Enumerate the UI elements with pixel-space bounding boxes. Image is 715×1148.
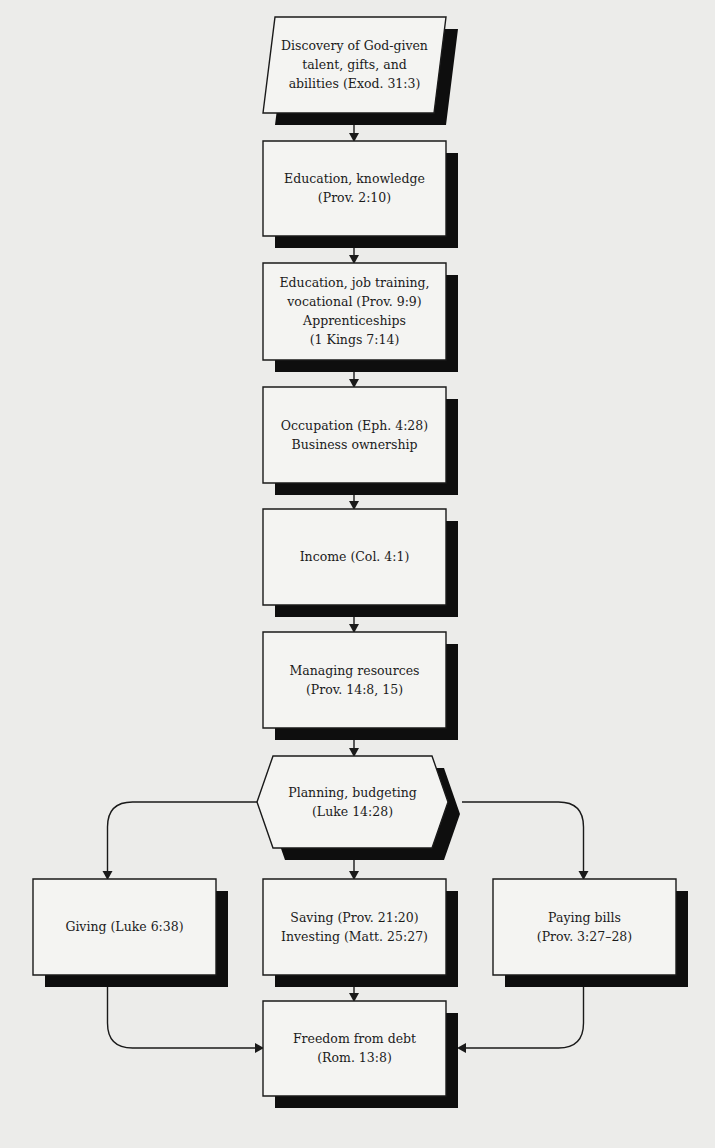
node-label-line: Education, knowledge [284,171,425,186]
nodes-layer: Discovery of God-giventalent, gifts, and… [33,17,688,1108]
node-shape-rectangle [263,387,446,483]
node-paying-bills: Paying bills(Prov. 3:27–28) [493,879,688,987]
node-label-line: talent, gifts, and [302,57,406,72]
node-shape-rectangle [263,1001,446,1096]
node-label-line: (Prov. 3:27–28) [537,929,632,944]
node-shape-rectangle [263,141,446,236]
node-label-line: Paying bills [548,910,621,925]
node-label-line: Saving (Prov. 21:20) [290,910,418,925]
node-label-line: Investing (Matt. 25:27) [281,929,428,944]
node-label-line: (Luke 14:28) [312,804,393,819]
node-planning-budgeting: Planning, budgeting(Luke 14:28) [257,756,460,860]
node-label-line: Discovery of God-given [281,38,428,53]
node-label-line: Occupation (Eph. 4:28) [281,418,428,433]
node-managing-resources: Managing resources(Prov. 14:8, 15) [263,632,458,740]
node-shape-hexagon [257,756,448,848]
connector-line [462,802,584,873]
node-occupation: Occupation (Eph. 4:28)Business ownership [263,387,458,495]
node-label-line: Income (Col. 4:1) [300,549,410,564]
node-label-line: Freedom from debt [293,1031,416,1046]
node-label-line: Giving (Luke 6:38) [65,919,183,934]
node-label-line: Apprenticeships [302,313,406,328]
connector-line [108,802,258,873]
node-discovery: Discovery of God-giventalent, gifts, and… [263,17,458,125]
node-education-knowledge: Education, knowledge(Prov. 2:10) [263,141,458,248]
connector-line [108,987,258,1048]
node-income: Income (Col. 4:1) [263,509,458,617]
flowchart: Discovery of God-giventalent, gifts, and… [0,0,715,1148]
node-giving: Giving (Luke 6:38) [33,879,228,987]
node-label-line: (Prov. 14:8, 15) [306,682,403,697]
node-label-line: (Prov. 2:10) [318,190,391,205]
node-shape-rectangle [263,632,446,728]
arrowhead-icon [457,1043,466,1053]
node-label-line: (Rom. 13:8) [317,1050,392,1065]
node-saving-investing: Saving (Prov. 21:20)Investing (Matt. 25:… [263,879,458,987]
node-label-line: Education, job training, [279,275,429,290]
node-label-line: abilities (Exod. 31:3) [289,76,421,91]
node-shape-rectangle [493,879,676,975]
node-label-line: (1 Kings 7:14) [310,332,400,347]
node-label-line: Planning, budgeting [288,785,417,800]
node-label-line: vocational (Prov. 9:9) [286,294,421,309]
node-label-line: Business ownership [291,437,417,452]
connector-line [464,987,584,1048]
node-shape-rectangle [263,879,446,975]
node-job-training: Education, job training,vocational (Prov… [263,263,458,372]
node-freedom-from-debt: Freedom from debt(Rom. 13:8) [263,1001,458,1108]
node-label-line: Managing resources [290,663,420,678]
